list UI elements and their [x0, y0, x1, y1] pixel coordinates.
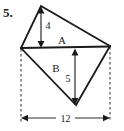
base-dimension: 12 — [21, 111, 110, 125]
height-b-label: 5 — [66, 73, 71, 84]
height-b-arrowhead-top — [72, 49, 79, 56]
region-a-label: A — [58, 34, 66, 46]
base-arrowhead-left — [21, 115, 28, 121]
problem-number-label: 5. — [3, 5, 13, 20]
base-arrowhead-right — [103, 115, 110, 121]
geometry-figure-svg: 5. 4 A B 5 — [0, 0, 124, 131]
geometry-figure-container: 5. 4 A B 5 — [0, 0, 124, 131]
shared-base-edge — [21, 47, 110, 49]
height-a-dimension: 4 — [38, 7, 51, 49]
region-b-label: B — [52, 62, 59, 74]
base-label: 12 — [61, 113, 71, 124]
height-a-label: 4 — [46, 20, 51, 31]
